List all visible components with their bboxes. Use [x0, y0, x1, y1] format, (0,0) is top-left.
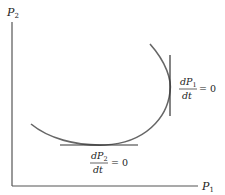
dp1-dt-zero-label: dP1 dt = 0	[179, 76, 216, 101]
svg-text:= 0: = 0	[111, 157, 128, 168]
trajectory-curve	[31, 44, 170, 145]
svg-text:dP2: dP2	[91, 150, 108, 163]
phase-plane-diagram: P2 P1 dP1 dt = 0 dP2 dt = 0	[0, 0, 225, 195]
svg-text:dt: dt	[93, 164, 103, 175]
dp2-dt-zero-label: dP2 dt = 0	[90, 150, 128, 175]
svg-text:dP1: dP1	[180, 76, 197, 89]
svg-text:= 0: = 0	[199, 83, 216, 94]
y-axis-label: P2	[6, 6, 19, 20]
x-axis-label: P1	[201, 180, 214, 194]
svg-text:dt: dt	[182, 90, 192, 101]
